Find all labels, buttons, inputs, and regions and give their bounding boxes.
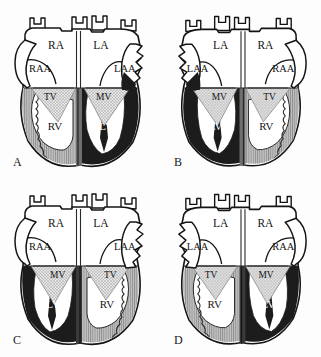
label-tv-d: TV [205, 270, 218, 280]
panel-letter-a: A [13, 155, 22, 170]
label-la-a: LA [93, 39, 109, 51]
label-raa-b: RAA [272, 63, 294, 74]
label-ra-a: RA [48, 39, 65, 51]
label-laa-a: LAA [114, 63, 136, 74]
label-rv-b: RV [259, 120, 273, 132]
label-rv-d: RV [208, 298, 222, 310]
label-rv-c: RV [100, 298, 114, 310]
label-tv-b: TV [263, 92, 276, 102]
interventricular-septum-c [76, 266, 82, 344]
label-lv-b: LV [209, 120, 223, 132]
heart-diagram-figure: RA LA RAA LAA TV MV RV LV A [0, 0, 321, 357]
interventricular-septum-a [76, 88, 82, 166]
label-tv-c: TV [104, 270, 117, 280]
panel-a: RA LA RAA LAA TV MV RV LV A [0, 0, 161, 179]
label-laa-d: LAA [187, 241, 209, 252]
label-mv-d: MV [258, 270, 273, 280]
label-ra-b: RA [257, 39, 274, 51]
panel-letter-b: B [174, 155, 183, 170]
label-la-b: LA [213, 39, 229, 51]
panel-letter-d: D [174, 333, 183, 348]
label-raa-a: RAA [29, 63, 52, 74]
label-raa-d: RAA [272, 241, 294, 252]
panel-letter-c: C [13, 333, 22, 348]
panel-c: RA LA RAA LAA MV TV LV RV C [0, 179, 161, 357]
label-mv-c: MV [50, 270, 65, 280]
label-rv-a: RV [48, 120, 62, 132]
label-ra-d: RA [257, 217, 274, 229]
label-la-d: LA [213, 217, 229, 229]
label-laa-b: LAA [187, 63, 209, 74]
interventricular-septum-b [240, 88, 246, 166]
label-la-c: LA [93, 217, 109, 229]
label-ra-c: RA [48, 217, 65, 229]
panel-d: RA LA RAA LAA TV MV RV LV D [161, 179, 321, 357]
label-mv-a: MV [96, 92, 111, 102]
label-laa-c: LAA [114, 241, 136, 252]
label-raa-c: RAA [29, 241, 52, 252]
label-lv-a: LV [99, 120, 113, 132]
interventricular-septum-d [240, 266, 246, 344]
label-tv-a: TV [44, 92, 57, 102]
label-mv-b: MV [212, 92, 227, 102]
label-lv-c: LV [46, 298, 60, 310]
label-lv-d: LV [262, 298, 276, 310]
panel-b: RA LA RAA LAA TV MV RV LV B [161, 0, 321, 179]
